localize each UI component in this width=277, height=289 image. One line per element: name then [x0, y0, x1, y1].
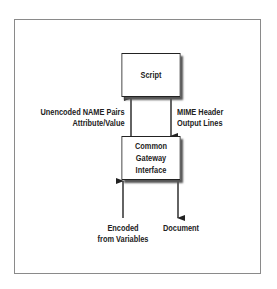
edge-label-output: Document	[163, 223, 199, 234]
script-label: Script	[141, 69, 162, 81]
cgi-label-line2: Interface	[136, 164, 167, 176]
edge-label-to-script: Unencoded NAME Pairs Attribute/Value	[41, 107, 125, 129]
edge-label-from-script: MIME Header Output Lines	[177, 107, 223, 129]
cgi-box: Common Gateway Interface	[121, 136, 180, 180]
cgi-label-line1: Common Gateway	[122, 140, 179, 164]
script-box: Script	[121, 53, 180, 97]
edge-label-input: Encoded from Variables	[98, 223, 149, 245]
